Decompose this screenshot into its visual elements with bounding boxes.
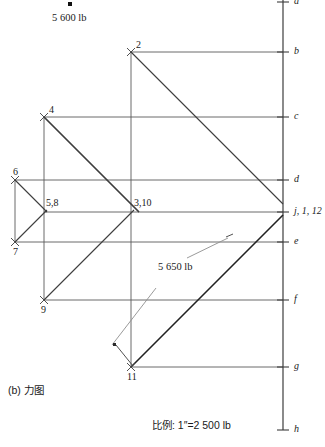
- member-7-to-58: [15, 210, 47, 242]
- arrowhead-lower: [113, 343, 116, 346]
- node-label-6: 6: [13, 167, 18, 177]
- diag-j-up-c: [188, 117, 283, 212]
- member-9-to-310: [44, 210, 134, 300]
- node-label-4: 4: [49, 105, 54, 115]
- marker-square-top: [68, 2, 72, 6]
- arrowhead-top: [68, 2, 72, 6]
- axis-label-b: b: [294, 46, 299, 56]
- leader-upper: [187, 238, 228, 258]
- scale-note: 比例: 1″=2 500 lb: [152, 420, 231, 431]
- horizontal-rays: [15, 52, 283, 367]
- node-label-310: 3,10: [134, 198, 152, 208]
- node-label-7: 7: [13, 247, 18, 257]
- axis-label-h: h: [294, 424, 299, 434]
- node-label-9: 9: [41, 305, 46, 315]
- d310-to-e: [131, 212, 161, 242]
- lower-diagonals: [44, 212, 283, 300]
- axis-label-c: c: [294, 111, 298, 121]
- node-label-11: 11: [127, 372, 137, 382]
- arrow-stem-lower: [116, 345, 133, 366]
- diagonal-members: [15, 52, 283, 367]
- axis-label-a: a: [294, 0, 299, 6]
- node-label-58: 5,8: [46, 198, 59, 208]
- axis-label-j-1-12: j, 1, 12: [294, 206, 322, 216]
- force-label-top: 5 600 lb: [52, 13, 86, 24]
- long-diagonals: [44, 117, 283, 212]
- member-2-to-d: [131, 52, 283, 204]
- vertical-rays: [15, 52, 131, 367]
- force-polygon-svg: [0, 0, 325, 447]
- arrow-stem-upper: [226, 234, 233, 237]
- figure-caption: (b) 力图: [8, 385, 44, 396]
- node-label-2: 2: [136, 40, 141, 50]
- axis-label-g: g: [294, 361, 299, 371]
- force-label-mid: 5 650 lb: [158, 262, 192, 273]
- force-diagram-figure: 5 600 lb 5 650 lb 2 4 6 5,8 3,10 7 9 11 …: [0, 0, 325, 447]
- axis-label-d: d: [294, 174, 299, 184]
- member-6-to-58: [15, 180, 47, 212]
- leader-lower: [112, 288, 156, 345]
- j-to-e: [253, 212, 283, 242]
- axis-label-f: f: [294, 294, 297, 304]
- vertex-crosses: [11, 48, 135, 371]
- leader-arrow-heads: [113, 343, 116, 346]
- axis-label-e: e: [294, 236, 298, 246]
